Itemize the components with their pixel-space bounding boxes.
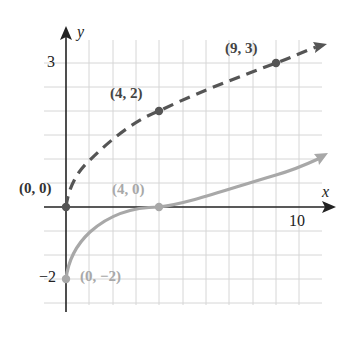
point-0-neg2 [62,275,70,283]
x-axis-label: x [322,183,329,201]
tick-y-neg2: −2 [39,268,56,286]
tick-y-3: 3 [47,53,55,71]
curve-sqrt-x-minus-2 [66,159,318,279]
graph-canvas [0,0,348,345]
point-9-3 [272,59,280,67]
y-axis-label: y [77,23,84,41]
label-point-9-3: (9, 3) [225,40,258,57]
point-4-2 [155,107,163,115]
point-0-0 [62,203,70,211]
tick-x-10: 10 [289,212,305,230]
label-point-0-neg2: (0, −2) [80,268,121,285]
label-point-4-2: (4, 2) [110,85,143,102]
label-point-0-0: (0, 0) [19,180,52,197]
point-4-0 [155,203,163,211]
label-point-4-0: (4, 0) [112,181,145,198]
